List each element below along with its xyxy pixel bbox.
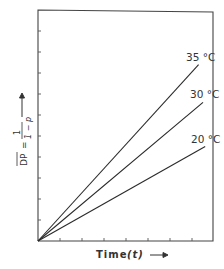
series-line <box>38 65 199 241</box>
y-axis-label-den: 1 − p <box>24 117 33 139</box>
chart: 35 °C 30 °C 20 °C Time (t) DP = 1 1 − p <box>0 0 224 269</box>
series-label-20c: 20 °C <box>191 133 220 145</box>
x-axis-arrow-icon <box>150 253 168 258</box>
y-axis-arrow-icon <box>20 93 25 117</box>
y-axis-label-num: 1 <box>13 130 22 135</box>
series-lines <box>38 65 205 241</box>
series-label-35c: 35 °C <box>186 51 215 63</box>
plot-frame <box>38 10 213 241</box>
series-line <box>38 102 203 241</box>
x-axis-label-var: (t) <box>127 249 144 260</box>
y-axis-label-eq: = <box>19 141 29 149</box>
series-labels: 35 °C 30 °C 20 °C <box>186 51 220 145</box>
x-axis-label-text: Time <box>96 249 127 260</box>
x-axis-label: Time (t) <box>96 249 168 260</box>
y-axis-label: DP = 1 1 − p <box>13 93 33 166</box>
series-line <box>38 147 205 242</box>
y-axis-label-lhs: DP <box>19 153 29 166</box>
series-label-30c: 30 °C <box>190 88 219 100</box>
